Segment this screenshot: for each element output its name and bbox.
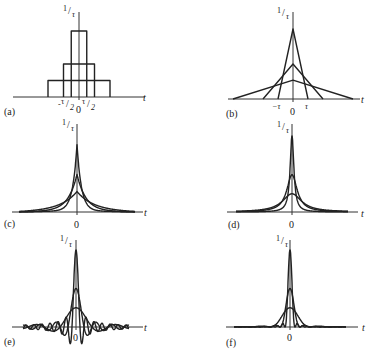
y-axis-label-slash: /: [281, 235, 284, 246]
minus-half-tau-numerator: τ: [61, 97, 65, 106]
y-axis-label-denominator: τ: [72, 10, 76, 19]
y-axis-label: 1/τ: [277, 120, 290, 135]
half-tau-numerator: τ: [82, 97, 86, 106]
panel-b: 1/τt(b)0−ττ: [226, 6, 364, 120]
y-axis-label-numerator: 1: [276, 234, 280, 243]
y-axis-label-slash: /: [67, 119, 70, 130]
tick-label-minus-half-tau: -τ/2: [58, 97, 74, 112]
figure-canvas: 1/τt(a)0-τ/2τ/21/τt(b)0−ττ1/τt(c)01/τt(d…: [0, 0, 371, 360]
y-axis-label-numerator: 1: [63, 4, 67, 13]
half-tau: τ/2: [82, 97, 95, 112]
panel-label: (a): [4, 106, 15, 118]
x-axis-label: t: [361, 94, 364, 105]
x-axis-label: t: [362, 322, 365, 333]
y-axis-label-numerator: 1: [60, 234, 64, 243]
tick-label-zero: 0: [74, 219, 79, 230]
y-axis-label-denominator: τ: [286, 12, 290, 21]
panel-e: 1/τt(e)0: [4, 234, 147, 348]
pulse-family-figure: 1/τt(a)0-τ/2τ/21/τt(b)0−ττ1/τt(c)01/τt(d…: [0, 0, 371, 360]
panel-d: 1/τt(d)0: [227, 120, 364, 231]
y-axis-label-numerator: 1: [277, 6, 281, 15]
x-axis-label: t: [144, 207, 147, 218]
tick-label-zero: 0: [73, 332, 78, 343]
minus-half-tau-denominator: 2: [70, 103, 74, 112]
panel-a: 1/τt(a)0-τ/2τ/2: [4, 4, 146, 118]
minus-half-tau: τ/2: [61, 97, 74, 112]
panel-label: (b): [226, 108, 238, 120]
y-axis-label: 1/τ: [60, 234, 73, 249]
y-axis-label: 1/τ: [277, 6, 290, 21]
y-axis-label-slash: /: [282, 121, 285, 132]
y-axis-label-slash: /: [65, 235, 68, 246]
y-axis-label-denominator: τ: [69, 240, 73, 249]
panel-label: (e): [4, 336, 15, 348]
tick-label-zero: 0: [289, 219, 294, 230]
tick-label-tau: τ: [305, 102, 309, 111]
tick-label-zero: 0: [290, 106, 295, 117]
panel-f: 1/τt(f)0: [226, 234, 365, 349]
tick-label-zero: 0: [76, 104, 81, 115]
half-tau-denominator: 2: [91, 103, 95, 112]
y-axis-label-denominator: τ: [71, 124, 75, 133]
half-tau-slash: /: [87, 98, 90, 109]
panel-label: (d): [228, 219, 240, 231]
y-axis-label-numerator: 1: [277, 120, 281, 129]
y-axis-label-numerator: 1: [62, 118, 66, 127]
tick-label-minus-tau: −τ: [272, 102, 281, 111]
y-axis-label: 1/τ: [63, 4, 76, 19]
y-axis-label: 1/τ: [62, 118, 75, 133]
x-axis-label: t: [144, 322, 147, 333]
y-axis-label-slash: /: [282, 7, 285, 18]
panel-label: (c): [4, 218, 15, 230]
y-axis-label: 1/τ: [276, 234, 289, 249]
tick-label-half-tau: τ/2: [82, 97, 95, 112]
minus-half-tau-slash: /: [66, 98, 69, 109]
panel-c: 1/τt(c)0: [4, 118, 147, 230]
y-axis-label-denominator: τ: [286, 126, 290, 135]
y-axis-label-slash: /: [68, 5, 71, 16]
tick-label-zero: 0: [287, 332, 292, 343]
x-axis-label: t: [143, 92, 146, 103]
y-axis-label-denominator: τ: [285, 240, 289, 249]
panel-label: (f): [226, 337, 236, 349]
x-axis-label: t: [361, 208, 364, 219]
